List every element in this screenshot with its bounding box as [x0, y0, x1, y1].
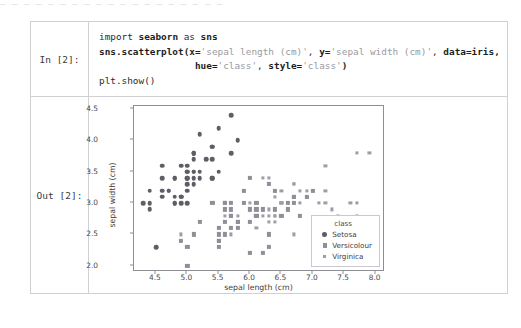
- data-point-virginica: [274, 220, 277, 223]
- data-point-versicolour: [229, 226, 233, 230]
- legend-title: class: [317, 219, 372, 230]
- data-point-setosa: [141, 201, 146, 206]
- code-editor[interactable]: import seaborn as sns sns.scatterplot(x=…: [99, 30, 501, 88]
- data-point-setosa: [160, 163, 165, 168]
- x-tick-label: 4.5: [149, 273, 161, 282]
- code-token: x=: [189, 46, 200, 57]
- data-point-versicolour: [267, 232, 271, 236]
- data-point-virginica: [267, 208, 270, 211]
- data-point-virginica: [299, 189, 302, 192]
- code-token: style=: [268, 60, 302, 71]
- chart-legend: class SetosaVersicolourVirginica: [311, 215, 380, 268]
- data-point-setosa: [147, 207, 152, 212]
- data-point-versicolour: [185, 245, 189, 249]
- x-tick-mark: [217, 271, 218, 274]
- data-point-virginica: [274, 214, 277, 217]
- data-point-setosa: [235, 138, 240, 143]
- x-tick-label: 7.5: [337, 273, 349, 282]
- code-token: 'class': [218, 60, 258, 71]
- y-tick-mark: [130, 170, 133, 171]
- data-point-versicolour: [273, 188, 277, 192]
- scatterplot-figure: sepal width (cm) sepal length (cm) class…: [97, 101, 389, 289]
- data-point-versicolour: [248, 251, 252, 255]
- data-point-setosa: [229, 151, 234, 156]
- data-point-versicolour: [248, 220, 252, 224]
- x-tick-mark: [186, 271, 187, 274]
- data-point-setosa: [191, 151, 196, 156]
- data-point-setosa: [185, 188, 190, 193]
- legend-item-label: Virginica: [332, 252, 363, 261]
- y-axis-label: sepal width (cm): [108, 147, 117, 243]
- input-cell-body[interactable]: import seaborn as sns sns.scatterplot(x=…: [89, 22, 507, 96]
- legend-marker-icon: [317, 232, 332, 237]
- data-point-virginica: [236, 214, 239, 217]
- data-point-versicolour: [223, 220, 227, 224]
- y-tick-label: 2.5: [86, 229, 98, 238]
- data-point-versicolour: [286, 201, 290, 205]
- legend-marker-glyph: [322, 232, 327, 237]
- legend-item-versicolour: Versicolour: [317, 240, 372, 251]
- data-point-setosa: [191, 169, 196, 174]
- data-point-versicolour: [267, 182, 271, 186]
- code-token: ,: [308, 46, 319, 57]
- data-point-setosa: [191, 182, 196, 187]
- y-tick-label: 2.0: [86, 260, 98, 269]
- data-point-virginica: [179, 233, 182, 236]
- x-tick-label: 6.0: [243, 273, 255, 282]
- data-point-versicolour: [185, 264, 189, 268]
- code-token: import: [99, 31, 139, 42]
- data-point-versicolour: [242, 188, 246, 192]
- data-point-versicolour: [235, 220, 239, 224]
- data-point-virginica: [255, 227, 258, 230]
- x-tick-mark: [311, 271, 312, 274]
- data-point-versicolour: [192, 232, 196, 236]
- data-point-setosa: [154, 245, 159, 250]
- data-point-virginica: [355, 202, 358, 205]
- data-point-virginica: [292, 233, 295, 236]
- data-point-virginica: [261, 214, 264, 217]
- code-token: 'sepal length (cm)': [201, 46, 308, 57]
- data-point-versicolour: [311, 188, 315, 192]
- data-point-virginica: [324, 164, 327, 167]
- data-point-versicolour: [254, 201, 258, 205]
- data-point-versicolour: [254, 214, 258, 218]
- data-point-setosa: [198, 132, 203, 137]
- data-point-virginica: [230, 233, 233, 236]
- data-point-versicolour: [179, 239, 183, 243]
- notebook-cell-table: In [2]: import seaborn as sns sns.scatte…: [30, 21, 508, 294]
- data-point-virginica: [349, 202, 352, 205]
- data-point-setosa: [172, 201, 177, 206]
- data-point-setosa: [160, 195, 165, 200]
- data-point-setosa: [172, 195, 177, 200]
- data-point-virginica: [248, 202, 251, 205]
- data-point-setosa: [166, 188, 171, 193]
- code-token: seaborn: [139, 31, 179, 42]
- code-token: ): [342, 60, 348, 71]
- data-point-setosa: [185, 182, 190, 187]
- code-token: [99, 60, 195, 71]
- x-tick-mark: [280, 271, 281, 274]
- x-tick-mark: [154, 271, 155, 274]
- data-point-versicolour: [242, 201, 246, 205]
- data-point-setosa: [160, 188, 165, 193]
- data-point-versicolour: [235, 226, 239, 230]
- data-point-versicolour: [217, 226, 221, 230]
- data-point-virginica: [267, 214, 270, 217]
- input-prompt-label: In [2]:: [39, 54, 79, 65]
- screenshot-root: — — — — — — — — — — — — — — — — — — — In…: [0, 0, 521, 328]
- data-point-virginica: [330, 208, 333, 211]
- data-point-versicolour: [298, 214, 302, 218]
- x-tick-label: 6.5: [275, 273, 287, 282]
- data-point-versicolour: [267, 245, 271, 249]
- data-point-versicolour: [261, 251, 265, 255]
- code-token: data=iris,: [443, 46, 499, 57]
- data-point-versicolour: [304, 195, 308, 199]
- data-point-versicolour: [286, 207, 290, 211]
- output-cell-body: sepal width (cm) sepal length (cm) class…: [89, 97, 507, 293]
- data-point-setosa: [160, 176, 165, 181]
- legend-marker-glyph: [323, 243, 327, 247]
- data-point-setosa: [229, 113, 234, 118]
- data-point-virginica: [280, 202, 283, 205]
- data-point-virginica: [368, 151, 371, 154]
- data-point-virginica: [292, 183, 295, 186]
